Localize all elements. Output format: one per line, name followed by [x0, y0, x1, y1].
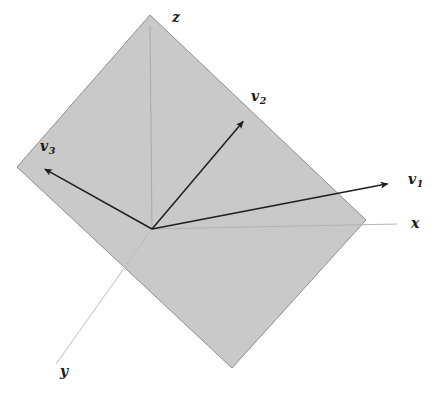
shaded-plane [17, 15, 366, 368]
vector-v2-label-subscript: 2 [260, 95, 267, 106]
z-axis-label: z [172, 10, 180, 24]
x-axis-label: x [411, 216, 419, 230]
vector-v3-label-base: v [40, 138, 48, 154]
vector-diagram-figure: z x y v1 v2 v3 [0, 0, 437, 394]
vector-v3-label-subscript: 3 [49, 145, 56, 156]
vector-v1-label: v1 [408, 172, 423, 186]
vector-v2-label: v2 [251, 89, 266, 103]
vector-v1-label-subscript: 1 [417, 178, 424, 189]
vector-v1-label-base: v [408, 171, 416, 187]
y-axis-line [56, 229, 152, 364]
diagram-canvas [0, 0, 437, 394]
vector-v2-label-base: v [251, 88, 259, 104]
vector-v3-label: v3 [40, 139, 55, 153]
y-axis-label: y [60, 364, 68, 378]
